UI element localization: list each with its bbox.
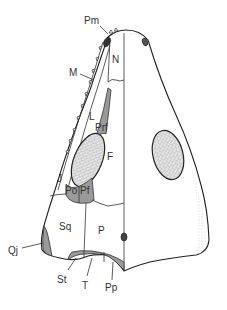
label-sq: Sq <box>59 221 71 232</box>
right-orbit <box>147 127 188 183</box>
label-l: L <box>89 111 95 122</box>
label-st: St <box>57 274 67 285</box>
pineal-foramen <box>121 233 127 241</box>
pm-leader <box>100 26 108 34</box>
quadratojugal-bone <box>43 226 52 256</box>
pp-leader <box>112 262 113 280</box>
posterior-shaded-bones <box>68 251 124 270</box>
label-pp: Pp <box>105 282 118 293</box>
jugal-suture <box>50 194 66 196</box>
label-qj: Qj <box>8 245 18 256</box>
sq-p-suture <box>84 203 86 254</box>
label-f: F <box>107 151 113 162</box>
label-pm: Pm <box>84 15 99 26</box>
left-nostril <box>102 36 112 48</box>
edge-stipple <box>190 165 206 253</box>
label-po: Po <box>65 185 78 196</box>
m-leader <box>80 74 94 80</box>
label-t: T <box>82 280 88 291</box>
qj-leader <box>22 243 43 248</box>
label-m: M <box>69 67 77 78</box>
label-n: N <box>112 54 119 65</box>
label-p: P <box>98 225 105 236</box>
label-j: J <box>57 173 62 184</box>
label-pf: Pf <box>80 185 90 196</box>
t-leader <box>87 258 92 276</box>
parietal-suture-top <box>92 200 124 206</box>
label-prf: Prf <box>95 122 108 133</box>
skull-diagram: Pm M N L Prf F J Po Pf Sq P Qj St T Pp <box>0 0 227 310</box>
